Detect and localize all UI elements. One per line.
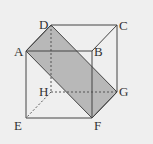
vertex-label-E: E [14, 118, 22, 133]
vertex-label-G: G [119, 84, 128, 99]
vertex-label-C: C [119, 18, 128, 33]
vertex-label-B: B [94, 44, 103, 59]
vertex-label-F: F [94, 118, 101, 133]
vertex-label-A: A [14, 44, 24, 59]
cube-diagram: A B C D E F G H [0, 0, 153, 144]
vertex-label-H: H [39, 84, 48, 99]
vertex-label-D: D [39, 17, 48, 32]
